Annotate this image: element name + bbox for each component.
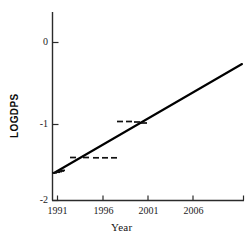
- x-axis-ticks: [58, 196, 244, 201]
- x-tick-label-1991: 1991: [39, 206, 76, 216]
- x-tick-label-2001: 2001: [130, 206, 167, 216]
- y-tick-label-minus1: -1: [28, 119, 48, 129]
- chart-figure: 0 -1 -2 1991 1996 2001 2006 Year LOGDPS: [0, 0, 252, 242]
- trend-line: [54, 64, 242, 173]
- y-tick-label-0: 0: [28, 37, 48, 47]
- y-axis-ticks: [53, 43, 59, 201]
- x-tick-label-1996: 1996: [85, 206, 122, 216]
- y-axis-title: LOGDPS: [9, 93, 20, 138]
- y-tick-label-minus2: -2: [28, 195, 48, 205]
- x-axis-title: Year: [111, 221, 132, 233]
- x-tick-label-2006: 2006: [175, 206, 212, 216]
